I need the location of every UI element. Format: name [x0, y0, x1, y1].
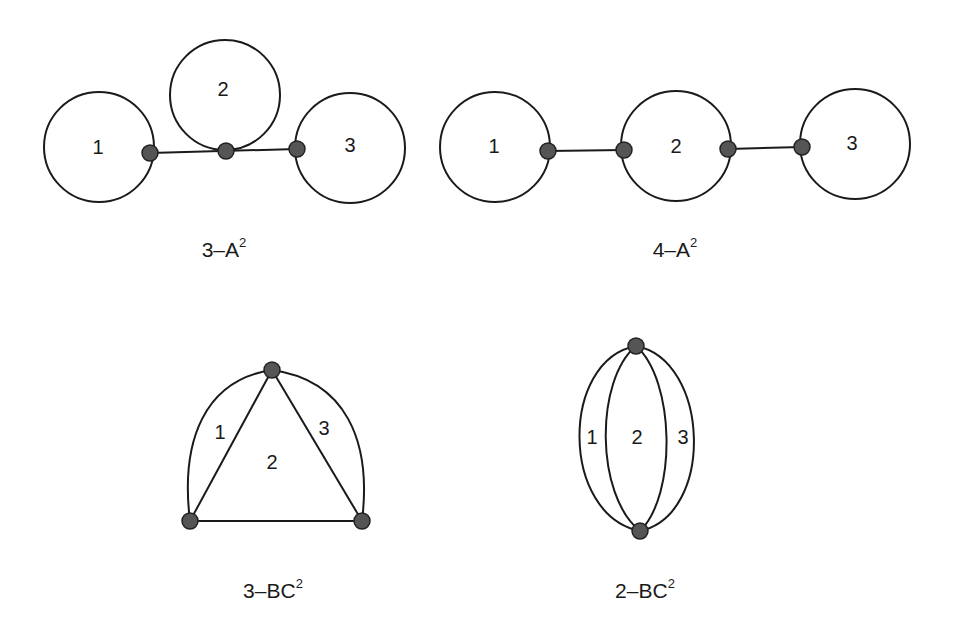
- caption-2-bc2: 2–BC2: [615, 576, 675, 602]
- vertex-top: [264, 362, 280, 378]
- vertex-top: [628, 338, 644, 354]
- vertex: [794, 139, 810, 155]
- face-label-2: 2: [217, 78, 228, 100]
- caption-3-a2: 3–A2: [202, 235, 247, 261]
- face-label-3: 3: [318, 417, 329, 439]
- caption-main: 2–BC: [615, 579, 668, 602]
- caption-main: 4–A: [653, 238, 690, 261]
- face-label-1: 1: [92, 136, 103, 158]
- caption-4-a2: 4–A2: [653, 235, 698, 261]
- caption-superscript: 2: [239, 235, 246, 250]
- caption-superscript: 2: [690, 235, 697, 250]
- vertex-bottom-right: [354, 513, 370, 529]
- diagram-3-bc2: 1 2 3 3–BC2: [182, 362, 370, 602]
- diagram-2-bc2: 1 2 3 2–BC2: [579, 338, 693, 602]
- connecting-edge-2: [728, 147, 802, 149]
- caption-main: 3–BC: [243, 579, 296, 602]
- face-label-2: 2: [266, 451, 277, 473]
- face-label-3: 3: [344, 134, 355, 156]
- vertex-bottom: [632, 523, 648, 539]
- vertex: [289, 141, 305, 157]
- face-label-2: 2: [631, 426, 642, 448]
- face-label-1: 1: [214, 421, 225, 443]
- vertex: [142, 145, 158, 161]
- vertex-bottom-left: [182, 513, 198, 529]
- vertex: [720, 141, 736, 157]
- diagram-3-a2: 1 2 3 3–A2: [44, 40, 405, 261]
- caption-superscript: 2: [668, 576, 675, 591]
- triangle-edge-right: [272, 370, 362, 521]
- caption-superscript: 2: [296, 576, 303, 591]
- face-label-3: 3: [677, 426, 688, 448]
- face-label-3: 3: [846, 132, 857, 154]
- caption-3-bc2: 3–BC2: [243, 576, 303, 602]
- vertex: [218, 143, 234, 159]
- diagram-4-a2: 1 2 3 4–A2: [440, 89, 910, 261]
- diagram-canvas: 1 2 3 3–A2 1 2 3 4–A2 1 2 3 3–BC2: [0, 0, 953, 631]
- face-label-1: 1: [586, 426, 597, 448]
- vertex: [540, 143, 556, 159]
- face-label-2: 2: [670, 135, 681, 157]
- face-label-1: 1: [488, 135, 499, 157]
- triangle-edge-left: [190, 370, 272, 521]
- caption-main: 3–A: [202, 238, 239, 261]
- vertex: [616, 142, 632, 158]
- connecting-edge-1: [548, 150, 624, 151]
